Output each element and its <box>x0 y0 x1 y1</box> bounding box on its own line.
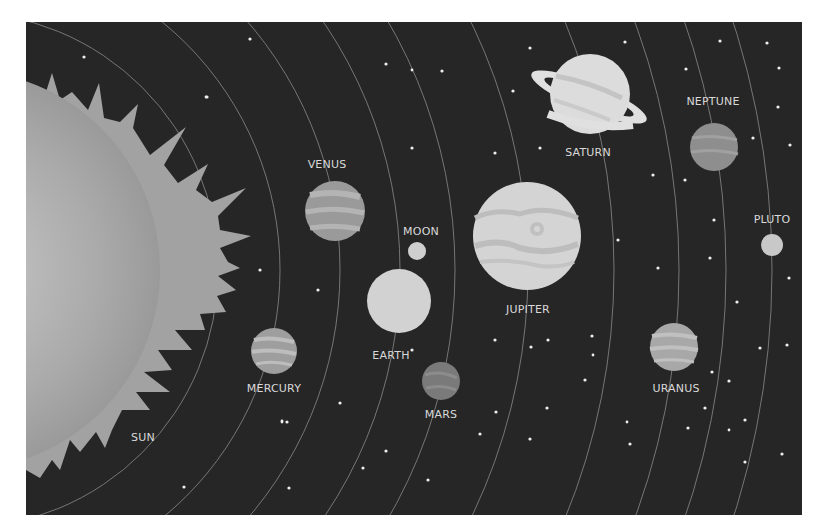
label-pluto: PLUTO <box>754 213 791 226</box>
planet-venus <box>305 181 365 241</box>
planet-mars <box>422 362 460 400</box>
label-earth: EARTH <box>372 349 409 362</box>
label-mars: MARS <box>425 408 457 421</box>
planet-saturn <box>526 54 651 134</box>
planet-neptune <box>690 123 738 171</box>
planet-jupiter <box>473 182 581 290</box>
label-venus: VENUS <box>308 158 347 171</box>
planet-earth <box>367 269 431 333</box>
solar-system-illustration: SUN MERCURY VENUS MOON EARTH MARS JUPITE… <box>26 22 802 515</box>
sun <box>26 70 251 478</box>
label-neptune: NEPTUNE <box>686 95 739 108</box>
planet-mercury <box>251 328 297 374</box>
label-saturn: SATURN <box>565 146 611 159</box>
planet-uranus <box>650 323 698 371</box>
label-moon: MOON <box>403 225 439 238</box>
planet-pluto <box>761 234 783 256</box>
label-mercury: MERCURY <box>247 382 301 395</box>
label-uranus: URANUS <box>652 382 699 395</box>
label-sun: SUN <box>131 431 155 444</box>
label-jupiter: JUPITER <box>506 303 550 316</box>
moon <box>408 242 426 260</box>
